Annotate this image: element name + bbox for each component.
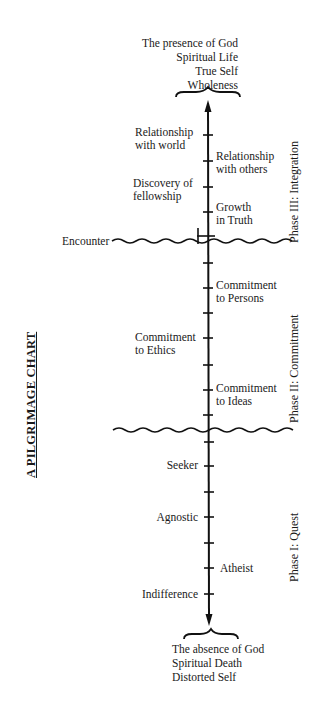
stage-commitment-to-ideas-l2: to Ideas	[216, 395, 252, 408]
bottom-pole-line-1: The absence of God	[172, 643, 264, 656]
stage-indifference: Indifference	[130, 588, 198, 601]
top-pole-line-3: True Self	[118, 65, 238, 78]
stage-commitment-to-persons-l1: Commitment	[216, 279, 277, 292]
arrow-down-icon	[206, 614, 213, 626]
bottom-pole-line-3: Distorted Self	[172, 671, 236, 684]
stage-commitment-to-ideas-l1: Commitment	[216, 382, 277, 395]
lower-wavy-line	[113, 428, 293, 432]
stage-seeker: Seeker	[140, 459, 198, 472]
stage-commitment-to-persons-l2: to Persons	[216, 292, 264, 305]
bottom-brace	[184, 629, 238, 639]
top-pole-line-4: Wholeness	[118, 79, 238, 92]
bottom-pole-line-2: Spiritual Death	[172, 657, 242, 670]
stage-growth-in-truth-l1: Growth	[216, 201, 251, 214]
chart-title: A PILGRIMAGE CHART	[24, 332, 39, 478]
stage-relationship-with-others-l2: with others	[216, 163, 267, 176]
stage-agnostic: Agnostic	[140, 511, 198, 524]
encounter-label: Encounter	[62, 235, 109, 248]
stage-atheist: Atheist	[220, 562, 253, 575]
stage-relationship-with-world-l1: Relationship	[135, 126, 193, 139]
vertical-axis-line	[208, 104, 209, 622]
stage-commitment-to-ethics-l2: to Ethics	[135, 344, 176, 357]
arrow-up-icon	[205, 100, 212, 112]
encounter-wavy-line	[112, 239, 292, 243]
stage-relationship-with-world-l2: with world	[135, 139, 185, 152]
phase-2-label: Phase II: Commitment	[287, 314, 302, 423]
top-pole-line-2: Spiritual Life	[118, 51, 238, 64]
top-pole-line-1: The presence of God	[118, 37, 238, 50]
stage-relationship-with-others-l1: Relationship	[216, 150, 274, 163]
phase-1-label: Phase I: Quest	[287, 513, 302, 582]
stage-discovery-of-fellowship-l2: fellowship	[133, 190, 182, 203]
stage-commitment-to-ethics-l1: Commitment	[135, 331, 196, 344]
stage-discovery-of-fellowship-l1: Discovery of	[133, 177, 193, 190]
stage-growth-in-truth-l2: in Truth	[216, 214, 253, 227]
phase-3-label: Phase III: Integration	[287, 141, 302, 243]
